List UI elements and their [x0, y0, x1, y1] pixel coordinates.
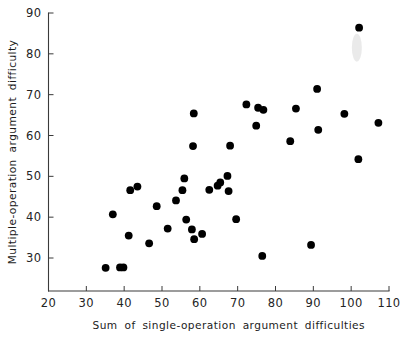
x-axis-title: Sum of single-operation argument difficu… [93, 319, 365, 331]
x-tick-label-110: 110 [377, 296, 400, 310]
data-point [198, 230, 206, 238]
x-tick-label-60: 60 [192, 296, 207, 310]
data-point [313, 85, 321, 93]
data-point [375, 119, 383, 127]
data-point [145, 239, 153, 247]
data-point [180, 174, 188, 182]
data-point [125, 232, 133, 240]
data-point [216, 179, 224, 187]
x-tick-label-80: 80 [268, 296, 283, 310]
y-axis-title: Multiple-operation argument difficulty [6, 40, 18, 265]
data-point [292, 105, 300, 113]
x-tick-label-90: 90 [306, 296, 321, 310]
data-point [134, 183, 142, 191]
data-point [102, 264, 110, 272]
data-point [252, 122, 260, 130]
y-tick-label-80: 80 [26, 47, 41, 61]
y-tick-label-60: 60 [26, 129, 41, 143]
data-point [224, 172, 232, 180]
y-tick-label-40: 40 [26, 210, 41, 224]
scan-artifact-0 [352, 34, 362, 62]
data-point [188, 226, 196, 234]
smudge-blob [352, 34, 362, 62]
x-tick-label-30: 30 [79, 296, 94, 310]
data-point [259, 106, 267, 114]
data-point [109, 210, 117, 218]
y-tick-label-70: 70 [26, 88, 41, 102]
data-point [153, 202, 161, 210]
data-point [314, 126, 322, 134]
y-tick-label-50: 50 [26, 169, 41, 183]
data-point [190, 235, 198, 243]
data-point [226, 142, 234, 150]
y-tick-label-30: 30 [26, 251, 41, 265]
data-point [307, 241, 315, 249]
data-point [164, 225, 172, 233]
data-point [354, 155, 362, 163]
data-point [205, 186, 213, 194]
data-point [258, 252, 266, 260]
plot-canvas: 304050607080902030405060708090100110Sum … [0, 0, 406, 339]
data-point [355, 24, 363, 32]
y-tick-label-90: 90 [26, 6, 41, 20]
data-point [172, 197, 180, 205]
data-point [120, 263, 128, 271]
data-point [340, 110, 348, 118]
data-point [242, 101, 250, 109]
x-tick-label-100: 100 [340, 296, 363, 310]
data-point [190, 110, 198, 118]
scatter-plot-figure: 304050607080902030405060708090100110Sum … [0, 0, 406, 339]
data-point [189, 142, 197, 150]
x-tick-label-20: 20 [41, 296, 56, 310]
data-point [126, 186, 134, 194]
data-point [225, 187, 233, 195]
data-point [182, 216, 190, 224]
data-point [232, 215, 240, 223]
x-tick-label-50: 50 [154, 296, 169, 310]
x-tick-label-40: 40 [116, 296, 131, 310]
data-point [286, 137, 294, 145]
x-tick-label-70: 70 [230, 296, 245, 310]
data-point [179, 186, 187, 194]
